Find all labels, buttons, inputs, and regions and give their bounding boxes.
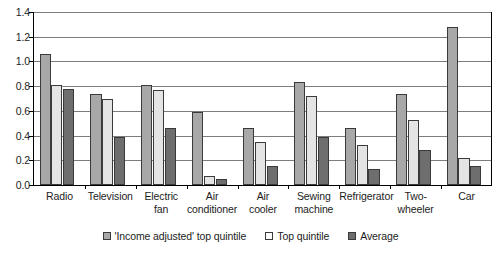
bar[interactable] <box>165 128 176 185</box>
legend-item[interactable]: Average <box>348 231 398 242</box>
legend-item[interactable]: 'Income adjusted' top quintile <box>103 231 247 242</box>
y-tick-label: 0.4 <box>0 131 30 141</box>
x-axis-label-line: Car <box>441 190 492 203</box>
bar-group <box>288 12 339 185</box>
x-axis-label-line: Refrigerator <box>339 190 390 203</box>
legend-label: Top quintile <box>277 231 329 242</box>
x-axis-label: Television <box>85 190 136 203</box>
x-axis-label-line: Air <box>187 190 238 203</box>
x-axis-label: Aircooler <box>238 190 289 215</box>
x-axis-label-line: wheeler <box>390 203 441 216</box>
x-axis-label-line: conditioner <box>187 203 238 216</box>
bar[interactable] <box>447 27 458 185</box>
bar-group <box>238 12 289 185</box>
bar-group <box>34 12 85 185</box>
bar[interactable] <box>141 85 152 185</box>
bar[interactable] <box>408 120 419 185</box>
bar[interactable] <box>470 166 481 185</box>
y-axis-tick-labels: 1.41.21.00.80.60.40.20.0 <box>0 0 30 186</box>
y-tick-mark <box>29 185 33 186</box>
bar-groups-layer <box>34 12 491 186</box>
bar[interactable] <box>90 94 101 185</box>
y-tick-mark <box>29 111 33 112</box>
x-axis-label: Radio <box>34 190 85 203</box>
bar[interactable] <box>419 150 430 185</box>
bar[interactable] <box>368 169 379 185</box>
x-axis-label: Car <box>441 190 492 203</box>
chart-legend: 'Income adjusted' top quintileTop quinti… <box>0 228 501 244</box>
x-axis-label-line: Sewing <box>288 190 339 203</box>
bar-group <box>441 12 492 185</box>
x-axis-baseline <box>34 185 491 186</box>
bar[interactable] <box>306 96 317 185</box>
bar-group <box>390 12 441 185</box>
bar[interactable] <box>357 145 368 185</box>
x-axis-category-labels: RadioTelevisionElectricfanAirconditioner… <box>34 190 492 224</box>
x-axis-label-line: Air <box>238 190 289 203</box>
x-axis-label-line: Electric <box>136 190 187 203</box>
y-tick-mark <box>29 37 33 38</box>
bar-group <box>85 12 136 185</box>
bar[interactable] <box>318 137 329 185</box>
bar[interactable] <box>396 94 407 185</box>
x-axis-label: Two-wheeler <box>390 190 441 215</box>
plot-area <box>34 12 492 186</box>
bar[interactable] <box>63 89 74 185</box>
y-tick-label: 1.4 <box>0 7 30 17</box>
legend-item[interactable]: Top quintile <box>265 231 329 242</box>
bar-group <box>136 12 187 185</box>
bar[interactable] <box>40 54 51 185</box>
y-tick-label: 0.2 <box>0 155 30 165</box>
bar-group <box>339 12 390 185</box>
y-tick-label: 0.8 <box>0 81 30 91</box>
bar[interactable] <box>192 112 203 185</box>
bar[interactable] <box>153 90 164 185</box>
bar[interactable] <box>294 82 305 185</box>
bar[interactable] <box>114 137 125 185</box>
y-tick-mark <box>29 160 33 161</box>
x-axis-label: Refrigerator <box>339 190 390 203</box>
y-tick-mark <box>29 12 33 13</box>
y-tick-label: 0.0 <box>0 180 30 190</box>
bar[interactable] <box>267 166 278 185</box>
y-tick-label: 0.6 <box>0 106 30 116</box>
bar-group <box>187 12 238 185</box>
legend-swatch-icon <box>348 232 356 240</box>
x-axis-label: Sewingmachine <box>288 190 339 215</box>
bar[interactable] <box>255 142 266 185</box>
x-axis-label-line: fan <box>136 203 187 216</box>
bar[interactable] <box>458 158 469 185</box>
x-axis-label-line: Television <box>85 190 136 203</box>
legend-swatch-icon <box>103 232 111 240</box>
bar[interactable] <box>345 128 356 185</box>
x-axis-label: Airconditioner <box>187 190 238 215</box>
bar[interactable] <box>204 176 215 185</box>
x-axis-label-line: Radio <box>34 190 85 203</box>
bar-chart-figure: 1.41.21.00.80.60.40.20.0 RadioTelevision… <box>0 0 501 256</box>
y-tick-mark <box>29 61 33 62</box>
legend-swatch-icon <box>265 232 273 240</box>
y-tick-mark <box>29 86 33 87</box>
y-tick-label: 1.0 <box>0 56 30 66</box>
legend-label: 'Income adjusted' top quintile <box>115 231 247 242</box>
legend-label: Average <box>360 231 398 242</box>
x-axis-label-line: machine <box>288 203 339 216</box>
bar[interactable] <box>51 85 62 185</box>
x-axis-label-line: cooler <box>238 203 289 216</box>
y-tick-label: 1.2 <box>0 32 30 42</box>
x-axis-label-line: Two- <box>390 190 441 203</box>
y-tick-mark <box>29 136 33 137</box>
bar[interactable] <box>243 128 254 185</box>
bar[interactable] <box>102 99 113 186</box>
x-axis-label: Electricfan <box>136 190 187 215</box>
